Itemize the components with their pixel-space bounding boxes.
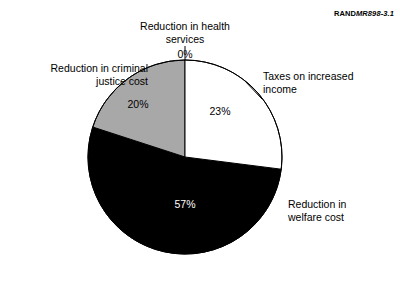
slice-label-taxes: Taxes on increased income [263,70,395,96]
slice-percent-health-services: 0% [152,48,218,60]
slice-percent-welfare: 57% [163,198,207,210]
slice-percent-taxes: 23% [198,105,242,117]
slice-label-welfare: Reduction in welfare cost [288,198,398,224]
slice-label-health-services: Reduction in health services [112,20,258,46]
slice-label-criminal-justice: Reduction in criminal justice cost [6,62,148,88]
slice-percent-criminal-justice: 20% [116,98,160,110]
pie-chart-figure: RANDMR898-3.1 Reduction in health servic… [0,0,400,281]
